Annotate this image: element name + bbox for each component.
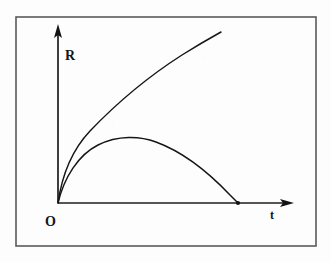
rising-curve (58, 32, 221, 203)
y-axis-label: R (65, 48, 76, 63)
origin-label: O (45, 214, 56, 229)
x-axis-label: t (270, 208, 274, 222)
arch-endpoint-marker (236, 201, 240, 205)
figure-root: R O t (0, 0, 331, 262)
diagram-canvas: R O t (0, 0, 331, 262)
arch-curve (58, 137, 238, 203)
